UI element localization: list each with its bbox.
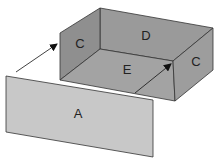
label-floor-e: E [123,62,132,77]
label-right-c: C [191,54,200,69]
arrow-panel-to-left [16,44,57,72]
label-back-d: D [141,28,150,43]
box-assembly-diagram: C D E C A [0,0,221,161]
label-panel-a: A [74,106,83,121]
label-left-c: C [75,36,84,51]
